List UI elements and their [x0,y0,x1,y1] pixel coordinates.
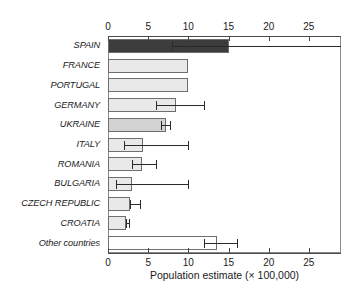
top-tick-mark [229,36,230,41]
category-label: GERMANY [0,100,100,110]
bottom-tick-mark [229,248,230,253]
error-bar-cap [124,141,125,150]
bottom-tick-mark [108,248,109,253]
error-bar-cap [126,219,127,228]
error-bar-line [132,164,156,165]
error-bar-line [161,125,170,126]
bottom-axis-line [108,253,341,254]
error-bar-line [130,204,140,205]
top-tick-label: 20 [257,21,281,32]
error-bar-cap [188,141,189,150]
top-tick-label: 25 [297,21,321,32]
bar-other-countries [108,236,217,250]
error-bar-cap [161,121,162,130]
error-bar-cap [140,200,141,209]
top-tick-label: 5 [136,21,160,32]
category-label: SPAIN [0,40,100,50]
top-tick-mark [309,36,310,41]
bars-layer [108,36,341,253]
error-bar-cap [156,101,157,110]
bar-portugal [108,78,188,92]
top-tick-mark [269,36,270,41]
bottom-tick-label: 0 [96,257,120,268]
bar-france [108,59,188,73]
category-label: BULGARIA [0,178,100,188]
category-label: CZECH REPUBLIC [0,198,100,208]
error-bar-line [116,184,188,185]
top-tick-mark [188,36,189,41]
error-bar-cap [132,160,133,169]
bottom-tick-label: 25 [297,257,321,268]
bar-croatia [108,216,126,230]
bottom-tick-mark [309,248,310,253]
bar-czech-republic [108,197,130,211]
category-label: CROATIA [0,218,100,228]
top-tick-label: 15 [217,21,241,32]
bottom-tick-mark [188,248,189,253]
error-bar-cap [170,121,171,130]
bottom-tick-mark [148,248,149,253]
category-label: UKRAINE [0,119,100,129]
error-bar-line [204,243,238,244]
bottom-tick-label: 5 [136,257,160,268]
category-label: PORTUGAL [0,80,100,90]
top-tick-mark [148,36,149,41]
category-label: Other countries [0,238,100,248]
bar-ukraine [108,118,166,132]
error-bar-line [172,46,341,47]
error-bar-cap [156,160,157,169]
error-bar-line [156,105,204,106]
error-bar-cap [172,42,173,51]
category-label: ITALY [0,139,100,149]
top-axis-line [108,36,341,37]
error-bar-cap [188,180,189,189]
bottom-tick-label: 15 [217,257,241,268]
bottom-tick-label: 10 [176,257,200,268]
error-bar-cap [204,239,205,248]
top-tick-label: 0 [96,21,120,32]
category-axis-labels: SPAINFRANCEPORTUGALGERMANYUKRAINEITALYRO… [0,36,104,253]
population-bar-chart: SPAINFRANCEPORTUGALGERMANYUKRAINEITALYRO… [0,0,356,288]
top-tick-mark [108,36,109,41]
bottom-tick-label: 20 [257,257,281,268]
error-bar-cap [129,219,130,228]
error-bar-cap [237,239,238,248]
category-label: ROMANIA [0,159,100,169]
x-axis-title: Population estimate (× 100,000) [108,269,341,281]
top-value-axis: 0510152025 [108,36,341,37]
bottom-tick-mark [269,248,270,253]
bottom-value-axis: 0510152025 [108,253,341,254]
error-bar-line [124,145,188,146]
error-bar-cap [130,200,131,209]
category-label: FRANCE [0,60,100,70]
top-tick-label: 10 [176,21,200,32]
error-bar-cap [116,180,117,189]
error-bar-cap [204,101,205,110]
